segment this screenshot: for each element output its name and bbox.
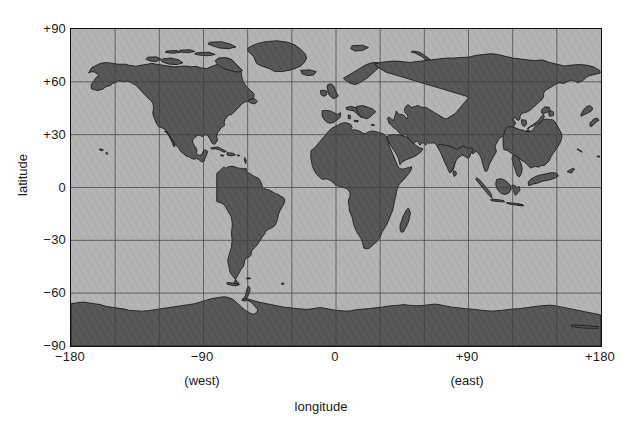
land-arctic-island-b (165, 50, 180, 53)
world-map-figure: +90 +60 +30 0 −30 −60 −90 latitude −180 … (0, 0, 642, 429)
land-south-georgia (282, 283, 285, 284)
x-axis-hemisphere-labels: (west) (east) (0, 374, 642, 392)
map-plot-area (70, 28, 602, 347)
hemisphere-label-west: (west) (157, 374, 247, 388)
hemisphere-label-east: (east) (422, 374, 512, 388)
land-falklands (246, 278, 250, 279)
xtick--90: −90 (162, 350, 242, 364)
land-ireland (321, 90, 328, 96)
xtick-0: 0 (295, 350, 375, 364)
xtick--180: −180 (30, 350, 110, 364)
x-axis-title: longitude (0, 400, 642, 414)
x-axis-tick-labels: −180 −90 0 +90 +180 (0, 350, 642, 370)
ytick-60: +60 (20, 75, 66, 88)
world-map-svg (71, 29, 601, 346)
land-crete (371, 124, 374, 125)
land-sicily (354, 120, 358, 122)
ytick-90: +90 (20, 22, 66, 35)
ytick--30: −30 (20, 233, 66, 246)
y-axis-title: latitude (16, 130, 30, 220)
land-arctic-island-a (180, 50, 195, 53)
ytick--60: −60 (20, 286, 66, 299)
land-puerto-rico (237, 155, 239, 156)
land-jamaica (221, 155, 224, 156)
land-tasmania (549, 111, 554, 116)
land-sardinia (348, 115, 350, 119)
land-fiji (597, 156, 599, 157)
land-timor (519, 204, 524, 206)
xtick-90: +90 (427, 350, 507, 364)
xtick-180: +180 (560, 350, 640, 364)
